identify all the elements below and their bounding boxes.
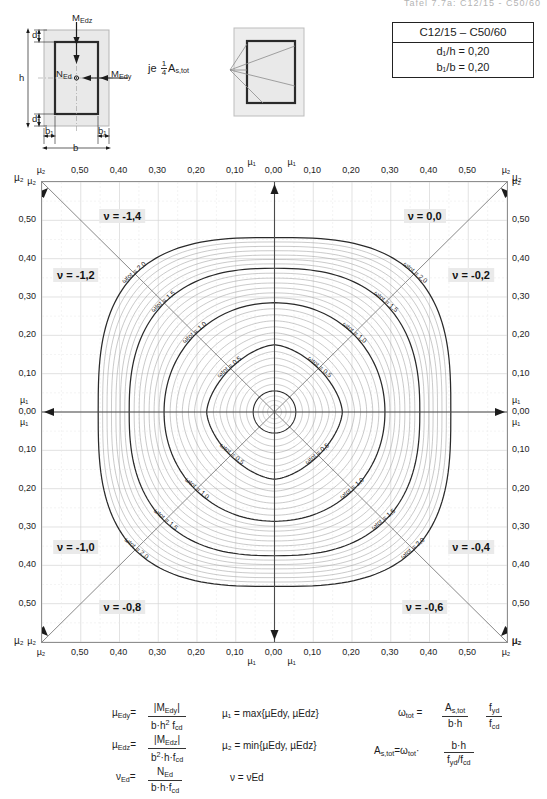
x-tick-bottom-right-1: 0,20 — [339, 647, 363, 657]
formula-omega-f2-num: fyd — [486, 702, 502, 717]
y-tick-left-mu1-bot: µ₁ — [20, 417, 28, 427]
formula-omega-f1-num: As,tot — [442, 702, 468, 717]
formula-section: µEdy= |MEdy| b·h2 fcd µEdz= |MEdz| b2·h·… — [0, 700, 547, 799]
reinforcement-figure: je 1 4 As,tot — [216, 24, 308, 129]
omega-label: ωtot = 1,5 — [373, 289, 400, 313]
y-tick-right-upper-5: 0,10 — [512, 368, 546, 378]
formula-omega-fraction-1: As,tot b·h — [442, 702, 468, 729]
corner-mu2-top-left: µ₂ — [14, 172, 24, 183]
y-tick-left-center: 0,00 — [2, 406, 36, 416]
label-m-edy: MEdy — [111, 68, 131, 81]
y-tick-left-lower-3: 0,40 — [2, 559, 36, 569]
rebar-frac-den: 4 — [161, 69, 167, 77]
label-d1-bottom: d₁ — [32, 113, 41, 124]
x-tick-top-center: 0,00 — [262, 165, 286, 175]
y-tick-right-mu1-bot: µ₁ — [512, 417, 520, 427]
nu-label-7: ν = -0,6 — [402, 600, 448, 614]
y-tick-right-lower-3: 0,40 — [512, 559, 546, 569]
y-tick-left-upper-3: 0,30 — [2, 291, 36, 301]
interaction-diagram: ωtot = 0,5ωtot = 0,5ωtot = 0,5ωtot = 0,5… — [0, 155, 547, 685]
omega-label: ωtot = 1,0 — [184, 476, 211, 500]
y-tick-left-mu1-top: µ₁ — [20, 395, 28, 405]
x-tick-bottom-left-0: µ₂ — [29, 647, 53, 657]
y-tick-left-upper-1: 0,50 — [2, 214, 36, 224]
y-tick-left-upper-4: 0,20 — [2, 329, 36, 339]
formula-nu-ed-fraction: NEd b·h·fcd — [148, 766, 182, 794]
reinforcement-svg — [216, 24, 308, 129]
omega-label: ωtot = 0,5 — [307, 355, 334, 379]
formula-omega-f2-den: fcd — [486, 717, 502, 731]
formula-mu-edz-fraction: |MEdz| b2·h·fcd — [148, 734, 186, 764]
label-d1-top: d₁ — [32, 29, 41, 40]
cross-section-figure: MEdz MEdy NEd h b d₁ d₁ b₁ b₁ — [14, 12, 144, 152]
formula-mu1: µ₁ = max{µEdy, µEdz} — [222, 708, 319, 740]
formula-mu-edy-num: |MEdy| — [148, 702, 186, 717]
nu-label-5: ν = -0,8 — [100, 600, 146, 614]
x-tick-bottom-right-2: 0,30 — [378, 647, 402, 657]
label-h: h — [19, 72, 24, 83]
y-tick-left-lower-4: 0,50 — [2, 598, 36, 608]
corner-mu2-bottom-right: µ₂ — [512, 635, 522, 646]
y-tick-right-lower-2: 0,30 — [512, 521, 546, 531]
y-tick-left-lower-2: 0,30 — [2, 521, 36, 531]
rebar-caption: je 1 4 As,tot — [148, 60, 189, 78]
corner-mu2-bottom-left: µ₂ — [14, 635, 24, 646]
y-tick-right-lower-0: 0,10 — [512, 444, 546, 454]
formula-column-minmax: µ₁ = max{µEdy, µEdz} µ₂ = min{µEdy, µEdz… — [222, 708, 319, 796]
x-tick-bottom-mu1-left: µ₁ — [248, 656, 256, 666]
y-tick-left-lower-0: 0,10 — [2, 444, 36, 454]
label-b1-left: b₁ — [45, 125, 54, 136]
y-tick-right-lower-1: 0,20 — [512, 483, 546, 493]
x-tick-top-right-1: 0,20 — [339, 165, 363, 175]
x-tick-top-left-2: 0,40 — [107, 165, 131, 175]
property-row-b1b: b₁/b = 0,20 — [393, 59, 533, 77]
x-tick-top-right-0: 0,10 — [300, 165, 324, 175]
label-m-edz: MEdz — [72, 12, 92, 25]
x-tick-bottom-left-1: 0,50 — [68, 647, 92, 657]
formula-omega-f1-den: b·h — [442, 717, 468, 729]
x-tick-top-left-1: 0,50 — [68, 165, 92, 175]
y-tick-left-upper-5: 0,10 — [2, 368, 36, 378]
x-tick-top-mu1-left: µ₁ — [248, 157, 256, 167]
nu-label-1: ν = -1,2 — [53, 268, 99, 282]
formula-nu: ν = νEd — [222, 772, 319, 796]
formula-mu-edz-lhs: µEdz= — [112, 739, 136, 752]
corner-mu2-top-right: µ₂ — [512, 172, 522, 183]
y-tick-right-mu1-top: µ₁ — [512, 395, 520, 405]
formula-as-tot-lhs: As,tot=ωtot· — [374, 745, 419, 758]
formula-as-den: fyd/fcd — [444, 753, 474, 767]
formula-mu-edy-fraction: |MEdy| b·h2 fcd — [148, 702, 186, 732]
x-tick-bottom-right-3: 0,40 — [417, 647, 441, 657]
formula-mu-edy-lhs: µEdy= — [112, 707, 136, 720]
x-tick-top-left-5: 0,10 — [223, 165, 247, 175]
x-tick-top-right-4: 0,50 — [455, 165, 479, 175]
nu-label-2: ν = 0,0 — [404, 209, 446, 223]
omega-label: ωtot = 2,0 — [402, 260, 429, 284]
formula-mu-edz-num: |MEdz| — [148, 734, 186, 749]
x-tick-bottom-mu1-right: µ₁ — [288, 656, 296, 666]
x-tick-bottom-right-0: 0,10 — [300, 647, 324, 657]
x-tick-bottom-left-4: 0,20 — [184, 647, 208, 657]
y-tick-left-lower-1: 0,20 — [2, 483, 36, 493]
plot-area: ωtot = 0,5ωtot = 0,5ωtot = 0,5ωtot = 0,5… — [41, 181, 508, 643]
concrete-class-row: C12/15 – C50/60 — [393, 23, 533, 43]
y-tick-right-upper-2: 0,40 — [512, 253, 546, 263]
x-tick-top-right-3: 0,40 — [417, 165, 441, 175]
formula-as-fraction: b·h fyd/fcd — [444, 740, 474, 767]
x-tick-bottom-left-2: 0,40 — [107, 647, 131, 657]
formula-nu-ed-den: b·h·fcd — [148, 781, 182, 795]
formula-mu-edy-den: b·h2 fcd — [148, 717, 186, 732]
omega-label: ωtot = 0,5 — [219, 442, 246, 466]
property-row-d1h: d₁/h = 0,20 — [393, 43, 533, 59]
nu-label-0: ν = -1,4 — [100, 209, 146, 223]
x-tick-bottom-left-3: 0,30 — [145, 647, 169, 657]
formula-nu-ed-lhs: νEd= — [116, 771, 136, 784]
label-b1-right: b₁ — [98, 125, 107, 136]
x-tick-top-right-2: 0,30 — [378, 165, 402, 175]
y-tick-right-upper-4: 0,20 — [512, 329, 546, 339]
nu-label-6: ν = -0,4 — [448, 540, 494, 554]
x-tick-bottom-right-5: µ₂ — [494, 647, 518, 657]
x-tick-bottom-center: 0,00 — [262, 647, 286, 657]
x-tick-top-left-4: 0,20 — [184, 165, 208, 175]
nu-label-3: ν = -0,2 — [448, 268, 494, 282]
